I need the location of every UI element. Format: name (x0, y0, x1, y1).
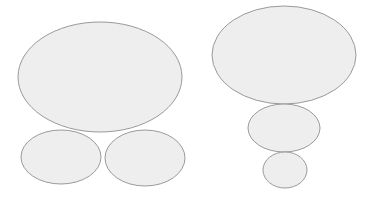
middle-ellipse (248, 104, 320, 152)
bottom-left-ellipse (21, 130, 101, 184)
right-group (212, 6, 356, 188)
diagram-canvas (0, 0, 374, 202)
top-ellipse (212, 6, 356, 104)
bottom-ellipse (263, 152, 307, 188)
bottom-right-ellipse (105, 130, 185, 186)
ellipse-diagram (0, 0, 374, 202)
left-group (18, 22, 185, 186)
large-ellipse (18, 22, 182, 132)
